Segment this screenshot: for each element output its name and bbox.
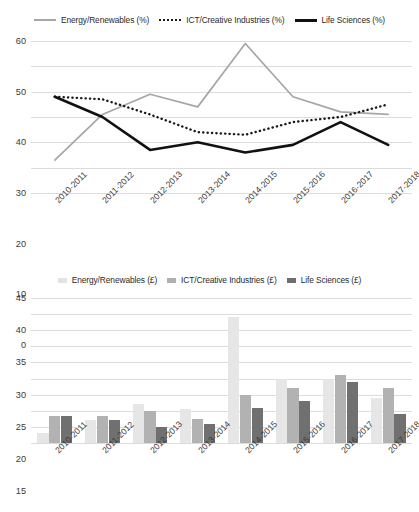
bar-series-1-category-8 xyxy=(371,398,382,443)
bar-series-2-category-3 xyxy=(144,411,155,443)
bar-series-2-category-7 xyxy=(335,375,346,443)
bar-series-2-category-1 xyxy=(49,416,60,443)
bar-chart-y-tick-label: 35 xyxy=(16,357,26,367)
line-chart-x-tick-label: 2013-2014 xyxy=(196,198,203,205)
bar-chart-gridline: 40 xyxy=(31,314,412,315)
line-chart-x-tick-label: 2010-2011 xyxy=(53,198,60,205)
bar-series-1-category-6 xyxy=(276,379,287,443)
bar-chart-gridline: 45 xyxy=(31,298,412,299)
bar-chart-gridline: 20 xyxy=(31,379,412,380)
bar-series-1-category-2 xyxy=(85,420,96,443)
line-chart-y-tick-label: 20 xyxy=(16,239,26,249)
bar-chart-x-tick-label: 2014-2015 xyxy=(243,448,250,455)
line-chart-x-tick-label: 2014-2015 xyxy=(243,198,250,205)
line-chart-x-tick-label: 2017-2018 xyxy=(386,198,393,205)
bar-series-1-category-3 xyxy=(133,404,144,443)
bar-series-1-category-1 xyxy=(37,433,48,443)
bar-chart-x-tick-label: 2010-2011 xyxy=(53,448,60,455)
bar-chart-y-tick-label: 40 xyxy=(16,325,26,335)
line-chart: 0102030405060 2010-20112011-20122012-201… xyxy=(0,0,419,255)
bar-chart-y-tick-label: 30 xyxy=(16,390,26,400)
line-chart-y-tick-label: 50 xyxy=(16,87,26,97)
bar-series-1-category-7 xyxy=(323,379,334,443)
line-chart-series-layer xyxy=(31,41,412,193)
bar-series-2-category-2 xyxy=(97,416,108,443)
bar-chart-y-tick-label: 25 xyxy=(16,422,26,432)
figure-container: Energy/Renewables (%) ICT/Creative Indus… xyxy=(0,0,419,512)
line-chart-y-tick-label: 30 xyxy=(16,188,26,198)
bar-series-2-category-4 xyxy=(192,419,203,443)
line-chart-x-tick-label: 2011-2012 xyxy=(100,198,107,205)
bar-chart-y-tick-label: 15 xyxy=(16,486,26,496)
bar-chart: 051015202530354045 2010-20112011-2012201… xyxy=(0,255,419,512)
line-chart-y-tick-label: 60 xyxy=(16,36,26,46)
line-chart-plot-area: 0102030405060 xyxy=(31,41,412,193)
bar-chart-y-tick-label: 45 xyxy=(16,293,26,303)
bar-chart-gridline: 25 xyxy=(31,362,412,363)
line-chart-x-tick-label: 2016-2017 xyxy=(339,198,346,205)
line-chart-y-tick-label: 40 xyxy=(16,137,26,147)
bar-chart-x-tick-label: 2013-2014 xyxy=(196,448,203,455)
line-series-3 xyxy=(55,97,388,153)
line-series-2 xyxy=(55,97,388,135)
bar-series-2-category-8 xyxy=(383,388,394,443)
bar-chart-x-tick-label: 2017-2018 xyxy=(386,448,393,455)
line-series-1 xyxy=(55,44,388,161)
bar-chart-x-tick-label: 2015-2016 xyxy=(291,448,298,455)
line-chart-x-tick-label: 2015-2016 xyxy=(291,198,298,205)
bar-chart-x-tick-label: 2011-2012 xyxy=(100,448,107,455)
bar-series-2-category-5 xyxy=(240,395,251,443)
bar-series-2-category-6 xyxy=(287,388,298,443)
bar-chart-x-tick-label: 2016-2017 xyxy=(339,448,346,455)
bar-chart-gridline: 35 xyxy=(31,330,412,331)
line-chart-x-tick-label: 2012-2013 xyxy=(148,198,155,205)
bar-chart-gridline: 30 xyxy=(31,346,412,347)
bar-chart-y-tick-label: 20 xyxy=(16,454,26,464)
bar-chart-x-tick-label: 2012-2013 xyxy=(148,448,155,455)
